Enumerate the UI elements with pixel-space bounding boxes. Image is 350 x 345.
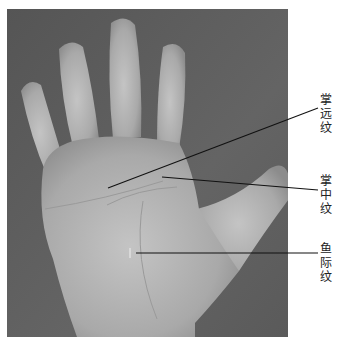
label-middle-palmar-crease: 掌 中 纹 [319,174,333,216]
leader-lines [0,0,350,345]
label-thenar-crease: 鱼 际 纹 [319,242,333,284]
label-char: 际 [319,256,333,270]
leader-line-middle [162,177,318,190]
leader-line-proximal [108,108,318,188]
label-char: 纹 [319,202,333,216]
label-char: 掌 [319,174,333,188]
label-char: 中 [319,188,333,202]
label-char: 掌 [319,93,333,107]
label-proximal-palmar-crease: 掌 远 纹 [319,93,333,135]
label-char: 远 [319,107,333,121]
label-char: 纹 [319,270,333,284]
label-char: 鱼 [319,242,333,256]
label-char: 纹 [319,121,333,135]
